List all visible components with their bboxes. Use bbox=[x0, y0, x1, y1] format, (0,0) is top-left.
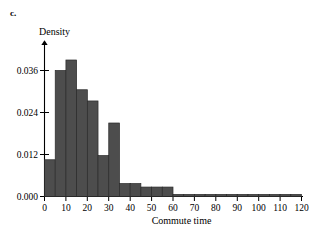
histogram-bar bbox=[248, 194, 259, 196]
histogram-bar bbox=[141, 187, 152, 196]
histogram-bar bbox=[259, 194, 270, 196]
histogram-bar bbox=[269, 194, 280, 196]
histogram-bar bbox=[130, 184, 141, 197]
x-tick-label: 60 bbox=[168, 203, 178, 213]
histogram-bar bbox=[66, 60, 77, 197]
x-tick-label: 100 bbox=[252, 203, 266, 213]
histogram-bar bbox=[280, 194, 291, 196]
x-tick-label: 50 bbox=[147, 203, 157, 213]
x-tick-label: 90 bbox=[233, 203, 243, 213]
x-tick-label: 40 bbox=[125, 203, 135, 213]
histogram-bar bbox=[45, 160, 56, 197]
y-tick-label: 0.000 bbox=[2, 192, 38, 202]
histogram-bar bbox=[237, 194, 248, 196]
x-tick-marks bbox=[45, 197, 302, 202]
y-tick-label: 0.012 bbox=[2, 150, 38, 160]
histogram-figure: c. Density bbox=[0, 0, 319, 246]
histogram-bar bbox=[184, 194, 195, 196]
y-tick-label: 0.036 bbox=[2, 66, 38, 76]
histogram-bar bbox=[173, 194, 184, 196]
x-tick-label: 110 bbox=[273, 203, 287, 213]
histogram-bar bbox=[152, 187, 163, 196]
histogram-bar bbox=[291, 194, 302, 196]
histogram-bar bbox=[98, 156, 109, 197]
histogram-bar bbox=[119, 184, 130, 197]
histogram-bar bbox=[109, 123, 120, 197]
x-tick-label: 10 bbox=[61, 203, 71, 213]
x-tick-label: 0 bbox=[42, 203, 47, 213]
histogram-bar bbox=[205, 194, 216, 196]
x-tick-label: 120 bbox=[294, 203, 308, 213]
x-tick-label: 20 bbox=[83, 203, 93, 213]
x-axis-title: Commute time bbox=[152, 215, 212, 226]
caption-fragment bbox=[8, 236, 311, 245]
x-axis-title-wrap: Commute time bbox=[0, 215, 319, 226]
histogram-bar bbox=[77, 90, 88, 197]
histogram-bar bbox=[87, 101, 98, 197]
x-tick-label: 30 bbox=[104, 203, 114, 213]
histogram-bar bbox=[162, 187, 173, 196]
y-tick-label: 0.024 bbox=[2, 108, 38, 118]
x-tick-label: 70 bbox=[190, 203, 200, 213]
histogram-bar bbox=[227, 194, 238, 196]
histogram-bars bbox=[45, 60, 302, 197]
plot-svg bbox=[0, 0, 319, 246]
histogram-bar bbox=[55, 71, 66, 197]
x-tick-label: 80 bbox=[211, 203, 221, 213]
histogram-bar bbox=[194, 194, 205, 196]
plot-area: 0.000 0.012 0.024 0.036 0 10 20 30 40 50… bbox=[0, 0, 319, 246]
histogram-bar bbox=[216, 194, 227, 196]
